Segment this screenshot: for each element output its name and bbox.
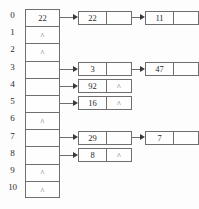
index-label-5: 5 [4,96,21,106]
chain-node-7-1: 7 [145,131,199,145]
chain-node-3-0-next [107,63,131,75]
chain-node-0-1: 11 [145,11,199,25]
index-label-6: 6 [4,113,21,123]
arrow-node-7-0-to-node-7-1 [131,134,145,141]
chain-node-8-0: 8 ^ [78,148,132,162]
index-label-10: 10 [4,182,21,192]
chain-node-4-0: 92 ^ [78,79,132,93]
chain-node-0-1-data: 11 [146,12,174,24]
chain-node-7-0-next [107,132,131,144]
bucket-cell-10: ^ [26,182,59,199]
index-label-0: 0 [4,10,21,20]
chain-node-7-1-data: 7 [146,132,174,144]
arrow-node-3-0-to-node-3-1 [131,66,145,73]
chain-node-3-0: 3 [78,62,132,76]
bucket-cell-6: ^ [26,113,59,130]
bucket-cell-4 [26,79,59,96]
bucket-cell-3 [26,62,59,79]
bucket-value-9: ^ [41,169,45,178]
bucket-cell-5 [26,96,59,113]
chain-node-8-0-data: 8 [79,149,107,161]
chain-node-7-0: 29 [78,131,132,145]
bucket-value-10: ^ [41,187,45,196]
chain-node-4-0-data: 92 [79,80,107,92]
chain-node-3-1-next [174,63,198,75]
chain-node-5-0-data: 16 [79,97,107,109]
index-label-8: 8 [4,148,21,158]
bucket-cell-9: ^ [26,165,59,182]
index-label-9: 9 [4,165,21,175]
arrow-bucket-7-to-node-0 [60,134,78,141]
chain-node-0-0: 22 [78,11,132,25]
null-marker-8: ^ [117,152,121,161]
arrow-bucket-4-to-node-0 [60,83,78,90]
chain-node-4-0-next: ^ [107,80,131,92]
chain-node-3-1: 47 [145,62,199,76]
null-marker-5: ^ [117,100,121,109]
bucket-cell-0: 22 [26,10,59,27]
arrow-bucket-3-to-node-0 [60,66,78,73]
arrow-bucket-0-to-node-0 [60,14,78,21]
chain-node-5-0-next: ^ [107,97,131,109]
bucket-value-6: ^ [41,118,45,127]
chain-node-3-0-data: 3 [79,63,107,75]
bucket-cell-8 [26,147,59,164]
index-label-1: 1 [4,27,21,37]
bucket-cell-2: ^ [26,44,59,61]
bucket-array: 22 ^ ^ ^ ^ ^ [25,9,60,198]
hash-table-diagram: 0 1 2 3 4 5 6 7 8 9 10 22 ^ ^ ^ ^ ^ 22 1 [0,0,199,209]
chain-node-0-0-next [107,12,131,24]
index-label-4: 4 [4,79,21,89]
bucket-value-0: 22 [38,13,47,23]
bucket-cell-1: ^ [26,27,59,44]
bucket-cell-7 [26,130,59,147]
bucket-value-1: ^ [41,32,45,41]
chain-node-0-1-next [174,12,198,24]
bucket-value-2: ^ [41,49,45,58]
null-marker-4: ^ [117,83,121,92]
index-label-2: 2 [4,44,21,54]
chain-node-7-0-data: 29 [79,132,107,144]
arrow-bucket-8-to-node-0 [60,152,78,159]
index-label-7: 7 [4,131,21,141]
index-label-3: 3 [4,62,21,72]
chain-node-8-0-next: ^ [107,149,131,161]
chain-node-5-0: 16 ^ [78,96,132,110]
arrow-node-0-0-to-node-0-1 [131,14,145,21]
arrow-bucket-5-to-node-0 [60,100,78,107]
chain-node-0-0-data: 22 [79,12,107,24]
chain-node-3-1-data: 47 [146,63,174,75]
chain-node-7-1-next [174,132,198,144]
